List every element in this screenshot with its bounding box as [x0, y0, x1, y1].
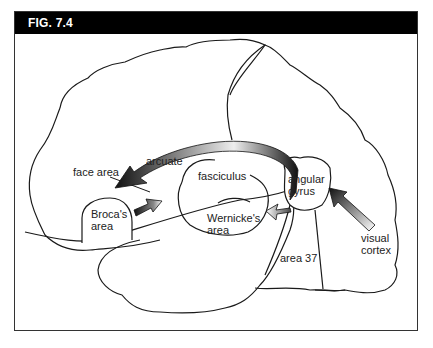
label-wernicke-1: Wernicke's [207, 212, 260, 224]
label-wernicke-2: area [207, 224, 229, 236]
temporal-lower-edge [255, 288, 345, 291]
label-fasciculus: fasciculus [198, 170, 246, 182]
label-visual-1: visual [361, 232, 389, 244]
label-broca-1: Broca's [91, 208, 127, 220]
label-area37: area 37 [280, 252, 317, 264]
label-arcuate: arcuate [146, 155, 183, 167]
angular-to-wernicke-arrow [266, 204, 291, 220]
label-angular-1: angular [288, 173, 325, 185]
label-face-area: face area [73, 166, 119, 178]
central-sulcus [230, 45, 265, 95]
label-visual-2: cortex [361, 244, 391, 256]
label-broca-2: area [91, 220, 113, 232]
visual-cortex-arrow [329, 188, 375, 231]
area37-boundary [315, 210, 323, 289]
broca-to-face-arrow [134, 199, 162, 216]
label-angular-2: gyrus [288, 185, 315, 197]
